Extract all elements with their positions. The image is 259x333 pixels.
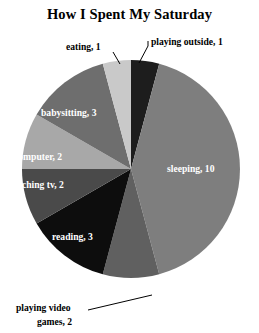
- pie-label-playing-video-games-line1: playing video: [16, 302, 71, 313]
- leader-line-playing-outside: [139, 41, 148, 63]
- pie-label-playing-video-games-line2: games, 2: [37, 316, 72, 327]
- pie-label-playing-outside: playing outside, 1: [151, 36, 223, 47]
- pie-label-computer: computer, 2: [14, 151, 62, 162]
- pie-chart-svg: sleeping, 10 reading, 3 watching tv, 2 c…: [0, 0, 259, 333]
- pie-label-sleeping: sleeping, 10: [167, 163, 215, 174]
- pie-chart-figure: How I Spent My Saturday sleeping, 10 rea…: [0, 0, 259, 333]
- pie-label-watching-tv: watching tv, 2: [7, 179, 64, 190]
- pie-label-eating: eating, 1: [66, 41, 101, 52]
- leader-line-playing-video-games: [88, 295, 152, 310]
- pie-label-babysitting: babysitting, 3: [41, 107, 97, 118]
- pie-label-reading: reading, 3: [52, 231, 93, 242]
